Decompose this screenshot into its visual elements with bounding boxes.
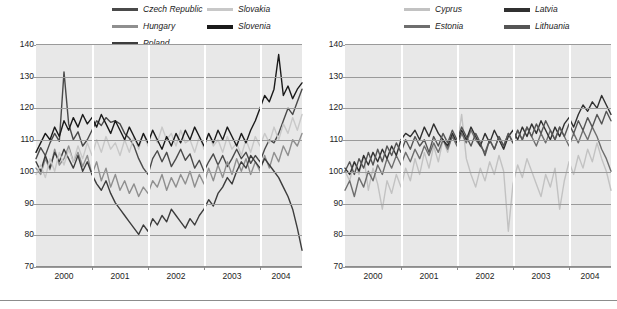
horizontal-gridline-right-130 bbox=[345, 77, 611, 78]
y-tick-label-right-110: 110 bbox=[329, 135, 343, 144]
y-tick-mark-left-120 bbox=[32, 108, 36, 109]
x-tick-label-left-2002: 2002 bbox=[167, 272, 186, 281]
x-tick-label-left-2004: 2004 bbox=[272, 272, 291, 281]
legend-entry-cyprus: Cyprus bbox=[404, 3, 504, 16]
horizontal-gridline-right-120 bbox=[345, 108, 611, 109]
y-tick-label-left-80: 80 bbox=[25, 230, 34, 239]
y-tick-label-left-70: 70 bbox=[25, 262, 34, 271]
y-tick-label-right-90: 90 bbox=[334, 198, 343, 207]
x-tick-label-left-2001: 2001 bbox=[111, 272, 130, 281]
x-tick-mark-right-2002 bbox=[457, 266, 458, 270]
horizontal-gridline-right-80 bbox=[345, 235, 611, 236]
chart-central-european-states: 140130120110100908070 200020012002200320… bbox=[6, 44, 302, 284]
y-tick-mark-right-140 bbox=[341, 45, 345, 46]
x-axis-line-left bbox=[36, 266, 302, 267]
y-tick-mark-left-110 bbox=[32, 140, 36, 141]
legend-entry-slovenia: Slovenia bbox=[207, 20, 302, 33]
horizontal-gridline-left-70 bbox=[36, 267, 302, 268]
y-tick-label-right-80: 80 bbox=[334, 230, 343, 239]
y-tick-label-right-70: 70 bbox=[334, 262, 343, 271]
y-tick-mark-right-130 bbox=[341, 77, 345, 78]
series-line-latvia bbox=[345, 96, 611, 175]
x-tick-label-right-2001: 2001 bbox=[420, 272, 439, 281]
legend-label-slovakia: Slovakia bbox=[238, 5, 270, 14]
legend-label-latvia: Latvia bbox=[535, 5, 558, 14]
x-tick-label-left-2000: 2000 bbox=[55, 272, 74, 281]
year-gridline-right-2001 bbox=[401, 45, 403, 266]
x-tick-mark-right-2001 bbox=[401, 266, 402, 270]
year-gridline-left-2001 bbox=[92, 45, 94, 266]
y-tick-label-right-100: 100 bbox=[329, 167, 343, 176]
y-tick-label-right-140: 140 bbox=[329, 40, 343, 49]
horizontal-gridline-left-80 bbox=[36, 235, 302, 236]
year-gridline-right-2002 bbox=[457, 45, 459, 266]
y-tick-mark-left-80 bbox=[32, 235, 36, 236]
legend-swatch-czech-republic bbox=[112, 8, 138, 11]
legend-swatch-hungary bbox=[112, 25, 138, 28]
year-gridline-left-2004 bbox=[260, 45, 262, 266]
legend-label-hungary: Hungary bbox=[143, 22, 175, 31]
y-tick-mark-left-100 bbox=[32, 172, 36, 173]
y-tick-mark-left-90 bbox=[32, 204, 36, 205]
series-lines-left bbox=[36, 45, 302, 266]
chart-baltic-cyprus-states: 140130120110100908070 200020012002200320… bbox=[315, 44, 611, 284]
y-tick-mark-right-110 bbox=[341, 140, 345, 141]
y-axis-labels-left: 140130120110100908070 bbox=[6, 44, 34, 266]
x-tick-label-left-2003: 2003 bbox=[223, 272, 242, 281]
legend-right-chart: Cyprus Estonia Latvia Lithuania bbox=[404, 3, 604, 33]
year-gridline-left-2002 bbox=[148, 45, 150, 266]
legend-swatch-lithuania bbox=[504, 25, 530, 29]
x-axis-labels-left: 20002001200220032004 bbox=[36, 272, 302, 286]
horizontal-gridline-right-110 bbox=[345, 140, 611, 141]
x-tick-label-right-2000: 2000 bbox=[364, 272, 383, 281]
series-lines-right bbox=[345, 45, 611, 266]
y-tick-mark-right-90 bbox=[341, 204, 345, 205]
horizontal-gridline-right-90 bbox=[345, 204, 611, 205]
x-tick-mark-right-2003 bbox=[513, 266, 514, 270]
x-tick-label-right-2004: 2004 bbox=[581, 272, 600, 281]
legend-swatch-slovakia bbox=[207, 8, 233, 11]
legend-entry-latvia: Latvia bbox=[504, 3, 604, 16]
plot-area-left bbox=[36, 44, 302, 266]
legend-swatch-slovenia bbox=[207, 25, 233, 29]
y-tick-mark-left-130 bbox=[32, 77, 36, 78]
legend-label-cyprus: Cyprus bbox=[435, 5, 462, 14]
y-tick-label-right-120: 120 bbox=[329, 103, 343, 112]
horizontal-gridline-left-120 bbox=[36, 108, 302, 109]
year-gridline-right-2004 bbox=[569, 45, 571, 266]
legend-right-column-1: Cyprus Estonia bbox=[404, 3, 504, 33]
x-tick-mark-left-2004 bbox=[260, 266, 261, 270]
x-tick-label-right-2002: 2002 bbox=[476, 272, 495, 281]
legend-left-chart: Czech Republic Hungary Poland Slovakia S… bbox=[112, 3, 302, 50]
year-gridline-right-2003 bbox=[513, 45, 515, 266]
horizontal-gridline-left-100 bbox=[36, 172, 302, 173]
series-line-cyprus bbox=[345, 114, 611, 231]
legend-label-lithuania: Lithuania bbox=[535, 22, 570, 31]
y-tick-mark-right-70 bbox=[341, 267, 345, 268]
x-axis-line-right bbox=[345, 266, 611, 267]
x-axis-labels-right: 20002001200220032004 bbox=[345, 272, 611, 286]
x-tick-label-right-2003: 2003 bbox=[532, 272, 551, 281]
footer-divider bbox=[0, 300, 617, 301]
legend-label-czech-republic: Czech Republic bbox=[143, 5, 203, 14]
horizontal-gridline-left-110 bbox=[36, 140, 302, 141]
horizontal-gridline-right-70 bbox=[345, 267, 611, 268]
y-tick-label-left-100: 100 bbox=[20, 167, 34, 176]
y-tick-label-left-120: 120 bbox=[20, 103, 34, 112]
y-tick-mark-left-70 bbox=[32, 267, 36, 268]
legend-entry-czech-republic: Czech Republic bbox=[112, 3, 207, 16]
chart-page: Czech Republic Hungary Poland Slovakia S… bbox=[0, 0, 617, 309]
legend-entry-hungary: Hungary bbox=[112, 20, 207, 33]
legend-label-slovenia: Slovenia bbox=[238, 22, 271, 31]
y-tick-mark-right-100 bbox=[341, 172, 345, 173]
legend-entry-lithuania: Lithuania bbox=[504, 20, 604, 33]
y-tick-label-left-110: 110 bbox=[20, 135, 34, 144]
x-tick-mark-right-2004 bbox=[569, 266, 570, 270]
plot-area-right bbox=[345, 44, 611, 266]
x-tick-mark-left-2003 bbox=[204, 266, 205, 270]
y-axis-labels-right: 140130120110100908070 bbox=[315, 44, 343, 266]
legend-right-column-2: Latvia Lithuania bbox=[504, 3, 604, 33]
y-tick-mark-right-80 bbox=[341, 235, 345, 236]
legend-label-estonia: Estonia bbox=[435, 22, 463, 31]
legend-swatch-cyprus bbox=[404, 8, 430, 11]
